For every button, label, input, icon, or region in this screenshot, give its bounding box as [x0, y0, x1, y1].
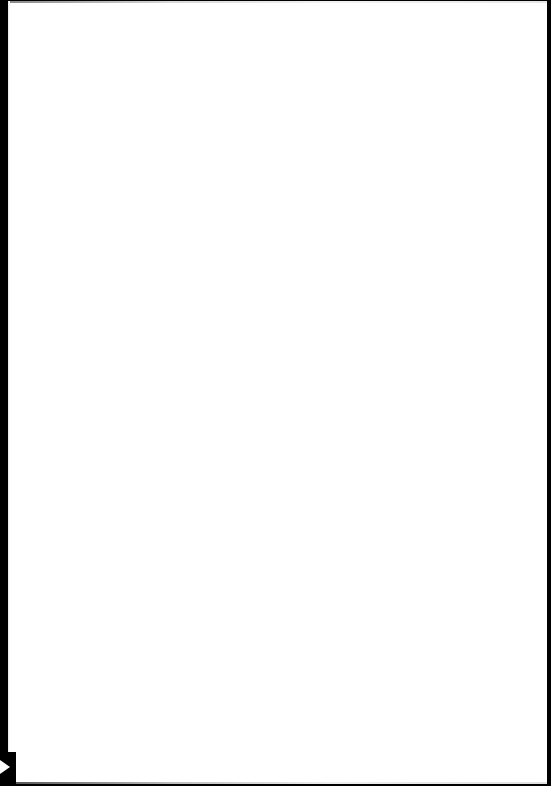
- scanned-page-frame: [0, 0, 551, 786]
- folded-corner-icon: [0, 760, 10, 774]
- left-edge-shadow: [8, 1, 10, 784]
- top-edge-shadow: [8, 1, 547, 3]
- bottom-edge-shadow: [8, 782, 547, 784]
- blank-page: [8, 1, 547, 784]
